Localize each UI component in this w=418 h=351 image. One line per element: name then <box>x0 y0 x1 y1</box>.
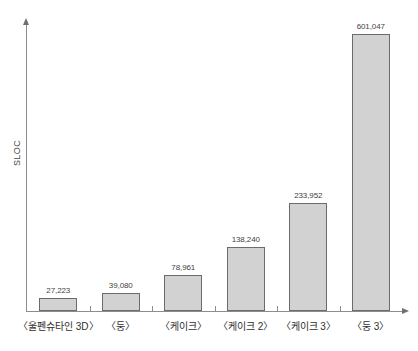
x-axis-category-label: 〈둥〉 <box>106 318 135 333</box>
x-axis-category-label: 〈케이크 3〉 <box>281 318 336 333</box>
bar <box>39 298 77 311</box>
bar <box>164 275 202 311</box>
bar <box>102 293 140 311</box>
bar-value-label: 27,223 <box>46 286 70 295</box>
x-axis-tick <box>215 306 216 312</box>
plot-area: 27,22339,08078,961138,240233,952601,047 <box>27 16 402 311</box>
bar-value-label: 138,240 <box>232 235 260 244</box>
bar-group: 601,047 <box>352 16 390 311</box>
x-axis-tick <box>277 306 278 312</box>
bar-value-label: 233,952 <box>294 191 322 200</box>
bar-value-label: 78,961 <box>171 263 195 272</box>
bar-value-label: 601,047 <box>357 22 385 31</box>
bar <box>289 203 327 311</box>
bar <box>227 247 265 311</box>
x-axis-tick <box>340 306 341 312</box>
bar-group: 39,080 <box>102 16 140 311</box>
bar-chart: SLOC 27,22339,08078,961138,240233,952601… <box>0 0 418 351</box>
x-axis-tick <box>90 306 91 312</box>
x-axis-arrow-icon <box>402 308 409 314</box>
x-axis-category-label: 〈둥 3〉 <box>352 318 389 333</box>
bar-group: 78,961 <box>164 16 202 311</box>
bar-value-label: 39,080 <box>109 281 133 290</box>
x-axis-category-label: 〈케이크〉 <box>160 318 207 333</box>
bar-group: 27,223 <box>39 16 77 311</box>
y-axis-title: SLOC <box>12 123 22 183</box>
x-axis-category-label: 〈울펜슈타인 3D〉 <box>18 318 99 333</box>
bar <box>352 34 390 311</box>
x-axis-line <box>26 311 405 312</box>
x-axis-category-label: 〈케이크 2〉 <box>218 318 273 333</box>
x-axis-tick <box>152 306 153 312</box>
bar-group: 138,240 <box>227 16 265 311</box>
bar-group: 233,952 <box>289 16 327 311</box>
